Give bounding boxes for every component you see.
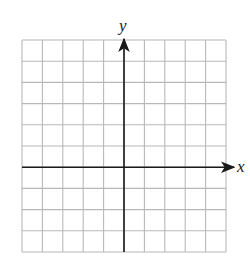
x-axis-label: x	[236, 157, 245, 176]
y-axis-label: y	[117, 16, 127, 35]
coordinate-plane: x y	[0, 0, 250, 256]
